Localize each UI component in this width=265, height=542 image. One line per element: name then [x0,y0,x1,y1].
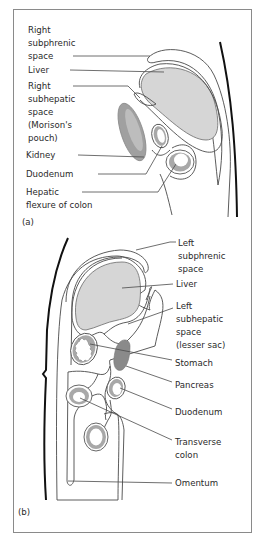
label-left-subhepatic-space: Left subhepatic space (lesser sac) [176,301,226,350]
label-duodenum-a: Duodenum [26,169,73,179]
leader-liver-a [70,70,164,72]
greater-omentum [104,413,124,500]
label-omentum: Omentum [175,478,218,488]
label-liver-b: Liver [176,279,198,289]
abdominal-wall-b [43,238,68,500]
label-right-subhepatic-space: Right subhepatic space (Morison's pouch) [28,81,78,143]
label-hepatic-flexure: Hepatic flexure of colon [26,187,93,210]
label-duodenum-b: Duodenum [175,407,222,417]
panel-a [112,42,237,217]
panel-b-tag: (b) [18,507,30,517]
label-liver-a: Liver [28,65,50,75]
peritoneal-spaces-diagram: Right subphrenic space Liver Right subhe… [0,0,265,542]
label-right-subphrenic-space: Right subphrenic space [28,25,78,61]
label-pancreas: Pancreas [175,380,214,390]
label-kidney: Kidney [26,150,55,160]
label-transverse-colon: Transverse colon [174,437,224,460]
liver-b [75,262,140,330]
panel-a-labels: Right subphrenic space Liver Right subhe… [22,25,176,227]
label-left-subphrenic-space: Left subphrenic space [178,238,228,274]
label-stomach: Stomach [175,358,213,368]
leader-pancreas [126,366,172,382]
leader-omentum [68,481,172,483]
leader-right-subhepatic [73,86,140,98]
leader-duodenum-b [120,388,172,409]
panel-b [43,238,163,500]
panel-a-tag: (a) [22,217,34,227]
pancreas [114,340,130,370]
leader-stomach [90,344,172,360]
leader-left-subphrenic [136,242,176,250]
